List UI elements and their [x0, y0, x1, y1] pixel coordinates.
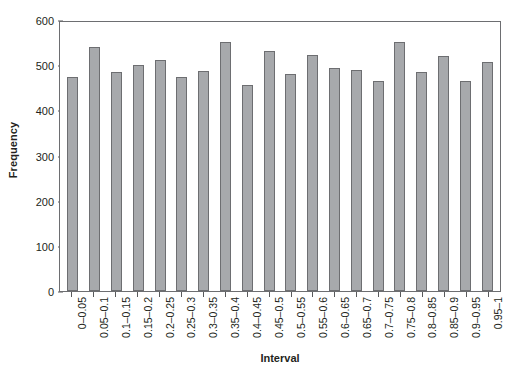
- x-tick-label-slot: 0.65–0.7: [346, 297, 368, 349]
- bar: [198, 71, 209, 291]
- plot-area: [59, 21, 501, 292]
- bar-chart-figure: Frequency 0100200300400500600 0–0.050.05…: [0, 0, 512, 377]
- bar-slot: [367, 22, 389, 291]
- bar: [285, 74, 296, 291]
- bar-series: [60, 22, 500, 291]
- bar: [416, 72, 427, 291]
- x-tick-label-slot: 0.6–0.65: [324, 297, 346, 349]
- bar-slot: [193, 22, 215, 291]
- y-axis-title: Frequency: [0, 0, 26, 300]
- bar: [438, 56, 449, 291]
- bar-slot: [280, 22, 302, 291]
- bar: [307, 55, 318, 291]
- x-tick-label-slot: 0–0.05: [61, 297, 83, 349]
- y-tick-label: 500: [36, 60, 54, 72]
- x-tick-label-slot: 0.15–0.2: [127, 297, 149, 349]
- bar: [89, 47, 100, 291]
- y-axis-title-text: Frequency: [7, 122, 19, 179]
- bar: [220, 42, 231, 291]
- bar-slot: [127, 22, 149, 291]
- x-tick-label-slot: 0.75–0.8: [390, 297, 412, 349]
- bar: [155, 60, 166, 291]
- bar: [176, 77, 187, 291]
- bar: [482, 62, 493, 291]
- x-tick-label-slot: 0.25–0.3: [171, 297, 193, 349]
- x-tick-label-slot: 0.55–0.6: [302, 297, 324, 349]
- bar: [264, 51, 275, 291]
- bar: [242, 85, 253, 291]
- y-tick-label: 600: [36, 15, 54, 27]
- bar-slot: [411, 22, 433, 291]
- x-tick-label-slot: 0.3–0.35: [192, 297, 214, 349]
- y-tick-label: 0: [48, 286, 54, 298]
- bar: [373, 81, 384, 291]
- y-tick-label: 100: [36, 241, 54, 253]
- bar: [351, 70, 362, 291]
- x-tick-label-slot: 0.95–1: [477, 297, 499, 349]
- x-tick-label-slot: 0.7–0.75: [368, 297, 390, 349]
- bar: [133, 65, 144, 291]
- bar-slot: [433, 22, 455, 291]
- x-axis-tick-labels: 0–0.050.05–0.10.1–0.150.15–0.20.2–0.250.…: [59, 297, 501, 349]
- bar-slot: [302, 22, 324, 291]
- x-tick-label-slot: 0.1–0.15: [105, 297, 127, 349]
- bar-slot: [84, 22, 106, 291]
- x-tick-label-slot: 0.9–0.95: [455, 297, 477, 349]
- x-axis-title: Interval: [59, 352, 501, 364]
- bar-slot: [389, 22, 411, 291]
- bar: [111, 72, 122, 291]
- bar-slot: [215, 22, 237, 291]
- y-axis-tick-labels: 0100200300400500600: [24, 16, 58, 293]
- x-tick-label-slot: 0.35–0.4: [214, 297, 236, 349]
- bar: [67, 77, 78, 291]
- bar-slot: [149, 22, 171, 291]
- x-tick-label-slot: 0.85–0.9: [433, 297, 455, 349]
- x-tick-label-slot: 0.8–0.85: [412, 297, 434, 349]
- bar: [460, 81, 471, 291]
- bar-slot: [454, 22, 476, 291]
- x-tick-label-slot: 0.4–0.45: [236, 297, 258, 349]
- bar-slot: [171, 22, 193, 291]
- x-tick-label-slot: 0.45–0.5: [258, 297, 280, 349]
- bar-slot: [236, 22, 258, 291]
- bar-slot: [258, 22, 280, 291]
- y-tick-label: 200: [36, 196, 54, 208]
- bar-slot: [62, 22, 84, 291]
- x-tick-label-slot: 0.5–0.55: [280, 297, 302, 349]
- y-tick-label: 300: [36, 151, 54, 163]
- x-tick-label: 0.95–1: [493, 297, 504, 329]
- x-tick-label-slot: 0.2–0.25: [149, 297, 171, 349]
- bar-slot: [476, 22, 498, 291]
- x-tick-label-slot: 0.05–0.1: [83, 297, 105, 349]
- bar-slot: [324, 22, 346, 291]
- bar-slot: [106, 22, 128, 291]
- y-tick-label: 400: [36, 105, 54, 117]
- bar: [394, 42, 405, 291]
- bar: [329, 68, 340, 291]
- bar-slot: [345, 22, 367, 291]
